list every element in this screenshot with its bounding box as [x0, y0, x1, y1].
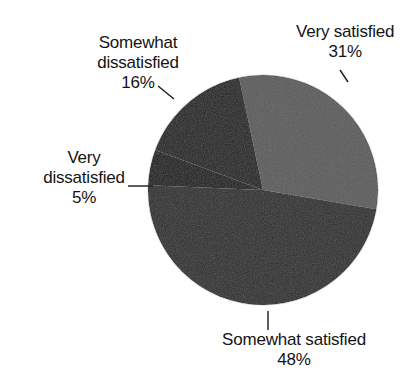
slice-label-somewhat-satisfied: Somewhat satisfied 48%	[202, 330, 386, 370]
slice-label-somewhat-dissatisfied-text-line2: dissatisfied	[82, 53, 194, 73]
slice-label-somewhat-dissatisfied: Somewhat dissatisfied 16%	[82, 33, 194, 93]
slice-label-very-satisfied: Very satisfied 31%	[296, 22, 394, 62]
slice-label-very-dissatisfied-text-line2: dissatisfied	[24, 168, 144, 188]
slice-label-very-dissatisfied: Very dissatisfied 5%	[24, 148, 144, 208]
leader-line-very-satisfied	[340, 70, 348, 82]
slice-label-somewhat-dissatisfied-percent: 16%	[82, 73, 194, 93]
slice-label-very-satisfied-text: Very satisfied	[296, 22, 394, 42]
slice-label-very-dissatisfied-text-line1: Very	[24, 148, 144, 168]
slice-label-somewhat-satisfied-percent: 48%	[202, 350, 386, 370]
pie-chart: Very satisfied 31% Somewhat dissatisfied…	[0, 0, 417, 383]
slice-label-somewhat-dissatisfied-text-line1: Somewhat	[82, 33, 194, 53]
slice-label-very-satisfied-percent: 31%	[296, 42, 394, 62]
slice-label-somewhat-satisfied-text: Somewhat satisfied	[202, 330, 386, 350]
slice-label-very-dissatisfied-percent: 5%	[24, 188, 144, 208]
